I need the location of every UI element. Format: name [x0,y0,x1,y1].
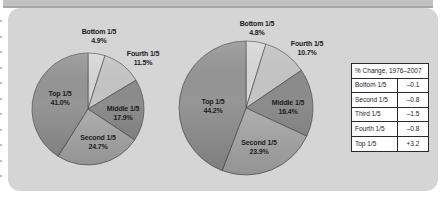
row-value: –0.8 [398,122,429,137]
row-label: Third 1/5 [352,107,398,122]
income-share-pie-right-label-bottom-1-5: Bottom 1/54.8% [240,20,275,36]
row-value: –0.1 [398,78,429,93]
change-table: % Change, 1976–2007 Bottom 1/5 –0.1 Seco… [351,63,429,152]
row-label: Fourth 1/5 [352,122,398,137]
income-share-pie-left-label-fourth-1-5: Fourth 1/511.5% [127,50,160,66]
table-row: Second 1/5 –0.8 [352,93,429,108]
income-share-pie-left: Bottom 1/54.9%Fourth 1/511.5%Middle 1/51… [32,28,159,166]
table-header-row: % Change, 1976–2007 [352,64,429,79]
table-row: Top 1/5 +3.2 [352,136,429,151]
income-share-pie-left-label-bottom-1-5: Bottom 1/54.9% [82,28,117,44]
row-label: Bottom 1/5 [352,78,398,93]
row-value: –0.8 [398,93,429,108]
change-table-title: % Change, 1976–2007 [352,64,429,79]
income-share-pie-right-label-fourth-1-5: Fourth 1/510.7% [291,40,324,56]
row-label: Top 1/5 [352,136,398,151]
row-value: –1.5 [398,107,429,122]
row-value: +3.2 [398,136,429,151]
table-row: Third 1/5 –1.5 [352,107,429,122]
row-label: Second 1/5 [352,93,398,108]
table-row: Fourth 1/5 –0.8 [352,122,429,137]
income-share-pie-right: Bottom 1/54.8%Fourth 1/510.7%Middle 1/51… [179,20,323,175]
figure-income-shares: Bottom 1/54.9%Fourth 1/511.5%Middle 1/51… [0,0,446,201]
table-row: Bottom 1/5 –0.1 [352,78,429,93]
